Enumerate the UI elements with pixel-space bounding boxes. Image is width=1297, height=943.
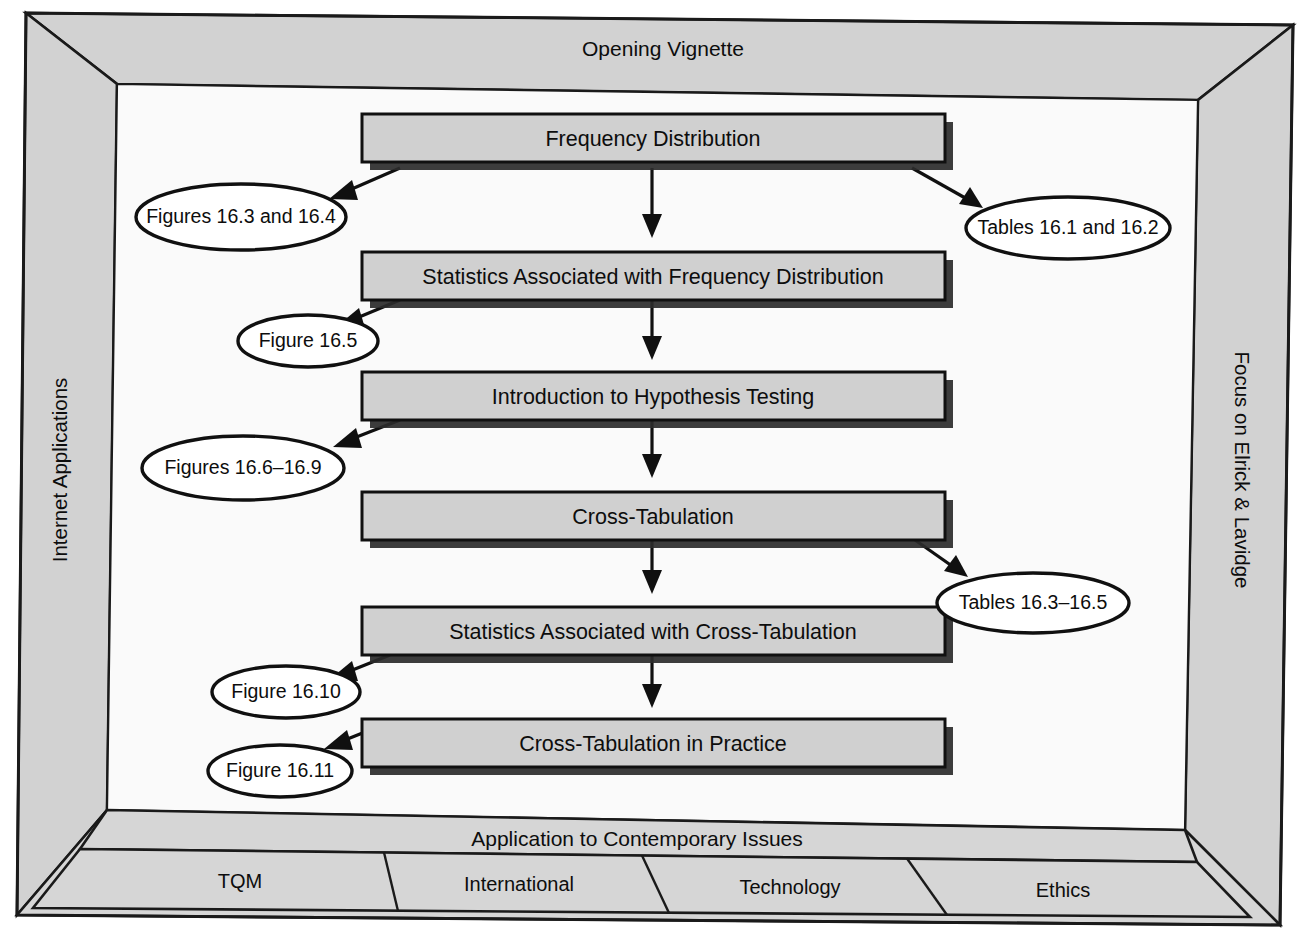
reference-ellipse-label: Tables 16.1 and 16.2 [977,216,1158,238]
process-box-label: Statistics Associated with Cross-Tabulat… [449,620,856,644]
process-box-label: Cross-Tabulation in Practice [519,732,787,756]
reference-ellipse-figures-16-3-16-4[interactable]: Figures 16.3 and 16.4 [136,184,346,250]
reference-ellipse-tables-16-1-16-2[interactable]: Tables 16.1 and 16.2 [966,197,1170,259]
chapter-overview-diagram: Opening Vignette Internet Applications F… [0,0,1297,943]
reference-ellipse-figures-16-6-16-9[interactable]: Figures 16.6–16.9 [142,436,344,500]
process-box-statistics-frequency-distribution[interactable]: Statistics Associated with Frequency Dis… [362,252,953,308]
bottom-cell-international: International [464,873,574,895]
process-box-label: Introduction to Hypothesis Testing [492,385,814,409]
process-box-statistics-cross-tabulation[interactable]: Statistics Associated with Cross-Tabulat… [362,607,953,663]
frame-left-label: Internet Applications [48,378,71,563]
reference-ellipse-tables-16-3-16-5[interactable]: Tables 16.3–16.5 [937,573,1129,633]
process-box-label: Statistics Associated with Frequency Dis… [422,265,883,289]
reference-ellipse-label: Tables 16.3–16.5 [959,591,1108,613]
bottom-cell-tqm: TQM [218,870,262,892]
reference-ellipse-figure-16-10[interactable]: Figure 16.10 [212,666,360,718]
bottom-band-label: Application to Contemporary Issues [471,827,803,850]
process-box-frequency-distribution[interactable]: Frequency Distribution [362,114,953,170]
reference-ellipse-label: Figure 16.11 [226,759,334,781]
process-box-label: Cross-Tabulation [572,505,733,529]
reference-ellipse-label: Figure 16.10 [231,680,341,702]
bottom-cell-technology: Technology [739,876,840,898]
process-box-cross-tabulation-in-practice[interactable]: Cross-Tabulation in Practice [362,719,953,775]
process-box-cross-tabulation[interactable]: Cross-Tabulation [362,492,953,548]
process-box-label: Frequency Distribution [545,127,760,151]
reference-ellipse-label: Figures 16.3 and 16.4 [146,205,336,227]
bottom-cell-ethics: Ethics [1036,879,1090,901]
process-box-introduction-hypothesis-testing[interactable]: Introduction to Hypothesis Testing [362,372,953,428]
frame-top-label: Opening Vignette [582,37,744,60]
frame-right-label: Focus on Elrick & Lavidge [1231,351,1254,588]
reference-ellipse-label: Figure 16.5 [259,329,358,351]
reference-ellipse-figure-16-5[interactable]: Figure 16.5 [238,315,378,367]
reference-ellipse-figure-16-11[interactable]: Figure 16.11 [208,745,352,797]
diagram-canvas: Opening Vignette Internet Applications F… [0,0,1297,943]
reference-ellipse-label: Figures 16.6–16.9 [164,456,321,478]
